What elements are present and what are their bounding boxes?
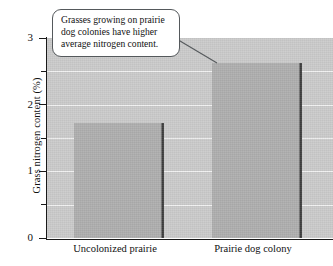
x-axis-line: [46, 239, 333, 240]
y-tick-2: [39, 104, 47, 105]
annotation-callout: Grasses growing on prairie dog colonies …: [52, 9, 180, 57]
bar-uncolonized-prairie[interactable]: [74, 123, 162, 238]
y-axis-title: Grass nitrogen content (%): [31, 41, 42, 231]
x-category-label-prairie-dog-colony: Prairie dog colony: [164, 243, 333, 254]
plot-area: [47, 38, 333, 238]
bar-right-edge: [162, 123, 164, 238]
bar-right-edge: [300, 63, 302, 238]
y-tick-label-1: 1: [5, 164, 33, 176]
y-tick-minor-2-5: [41, 71, 47, 72]
y-tick-0: [39, 238, 47, 239]
y-tick-label-0: 0: [5, 231, 33, 243]
annotation-callout-text: Grasses growing on prairie dog colonies …: [61, 14, 172, 51]
y-tick-minor-1-5: [41, 138, 47, 139]
y-tick-3: [39, 38, 47, 39]
y-tick-label-2: 2: [5, 98, 33, 110]
callout-leader-line: [175, 38, 221, 66]
y-tick-label-3: 3: [5, 31, 33, 43]
bar-prairie-dog-colony[interactable]: [212, 63, 300, 238]
y-tick-1: [39, 171, 47, 172]
bar-chart-figure: Grass nitrogen content (%) 3 2 1 0 Uncol…: [0, 0, 333, 266]
y-tick-minor-0-5: [41, 204, 47, 205]
